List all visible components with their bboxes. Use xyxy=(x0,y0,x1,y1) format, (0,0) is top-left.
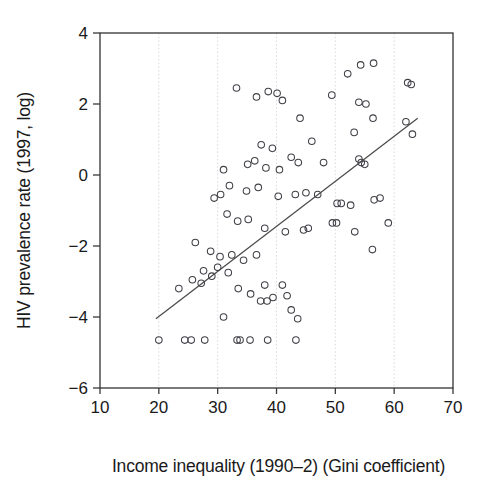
data-point xyxy=(263,165,270,172)
data-point xyxy=(309,138,316,145)
data-point xyxy=(351,229,358,236)
data-point xyxy=(356,99,363,106)
data-point xyxy=(228,252,235,259)
data-point xyxy=(409,131,416,138)
data-point xyxy=(275,193,282,200)
data-point xyxy=(264,337,271,344)
data-point xyxy=(244,161,251,168)
data-point xyxy=(261,225,268,232)
data-point xyxy=(189,276,196,283)
y-tick-label: 4 xyxy=(79,24,88,43)
y-tick-label: 0 xyxy=(79,166,88,185)
y-tick-label: −4 xyxy=(69,308,88,327)
data-point xyxy=(255,184,262,191)
data-point xyxy=(274,90,281,97)
data-point xyxy=(243,188,250,195)
data-point xyxy=(207,248,214,255)
y-tick-label: −2 xyxy=(69,237,88,256)
data-point xyxy=(292,191,299,198)
data-points xyxy=(156,60,416,344)
data-point xyxy=(294,315,301,322)
data-point xyxy=(370,60,377,67)
data-point xyxy=(251,158,258,165)
x-tick-label: 70 xyxy=(444,398,463,417)
data-point xyxy=(295,159,302,166)
data-point xyxy=(253,252,260,259)
data-point xyxy=(233,85,240,92)
x-tick-label: 50 xyxy=(326,398,345,417)
data-point xyxy=(245,216,252,223)
data-point xyxy=(333,220,340,227)
data-point xyxy=(288,307,295,314)
data-point xyxy=(370,115,377,122)
data-point xyxy=(217,253,224,260)
data-point xyxy=(293,337,300,344)
data-point xyxy=(201,337,208,344)
data-point xyxy=(188,337,195,344)
y-tick-label: −6 xyxy=(69,379,88,398)
data-point xyxy=(225,269,232,276)
data-point xyxy=(234,218,241,225)
x-tick-label: 40 xyxy=(267,398,286,417)
data-point xyxy=(235,285,242,292)
x-axis: 10203040506070 xyxy=(91,388,463,417)
figure-container: 10203040506070−6−4−2024Income inequality… xyxy=(0,0,490,495)
data-point xyxy=(224,211,231,218)
data-point xyxy=(288,154,295,161)
data-point xyxy=(284,292,291,299)
data-point xyxy=(303,189,310,196)
data-point xyxy=(264,298,271,305)
data-point xyxy=(369,246,376,253)
data-point xyxy=(220,166,227,173)
data-point xyxy=(279,97,286,104)
data-point xyxy=(329,92,336,99)
y-axis: −6−4−2024 xyxy=(69,24,100,398)
data-point xyxy=(226,182,233,189)
x-axis-title: Income inequality (1990–2) (Gini coeffic… xyxy=(112,456,445,476)
x-tick-label: 20 xyxy=(149,398,168,417)
data-point xyxy=(344,71,351,78)
data-point xyxy=(181,337,188,344)
data-point xyxy=(357,62,364,69)
data-point xyxy=(220,314,227,321)
x-tick-label: 60 xyxy=(385,398,404,417)
data-point xyxy=(351,129,358,136)
data-point xyxy=(258,142,265,149)
data-point xyxy=(385,220,392,227)
data-point xyxy=(217,191,224,198)
data-point xyxy=(377,195,384,202)
data-point xyxy=(320,159,327,166)
data-point xyxy=(279,282,286,289)
x-tick-label: 30 xyxy=(208,398,227,417)
data-point xyxy=(253,94,260,101)
data-point xyxy=(257,298,264,305)
data-point xyxy=(211,195,218,202)
data-point xyxy=(261,282,268,289)
data-point xyxy=(347,202,354,209)
data-point xyxy=(338,200,345,207)
data-point xyxy=(282,229,289,236)
data-point xyxy=(176,285,183,292)
data-point xyxy=(363,101,370,108)
data-point xyxy=(240,257,247,264)
y-axis-title: HIV prevalence rate (1997, log) xyxy=(14,92,34,329)
data-point xyxy=(200,268,207,275)
data-point xyxy=(247,337,254,344)
data-point xyxy=(297,115,304,122)
data-point xyxy=(265,88,272,95)
gridlines xyxy=(159,33,394,388)
x-tick-label: 10 xyxy=(91,398,110,417)
data-point xyxy=(269,145,276,152)
data-point xyxy=(247,291,254,298)
scatter-plot: 10203040506070−6−4−2024Income inequality… xyxy=(0,0,490,495)
y-tick-label: 2 xyxy=(79,95,88,114)
data-point xyxy=(276,166,283,173)
regression-line xyxy=(156,118,418,319)
data-point xyxy=(192,239,199,246)
data-point xyxy=(403,118,410,125)
